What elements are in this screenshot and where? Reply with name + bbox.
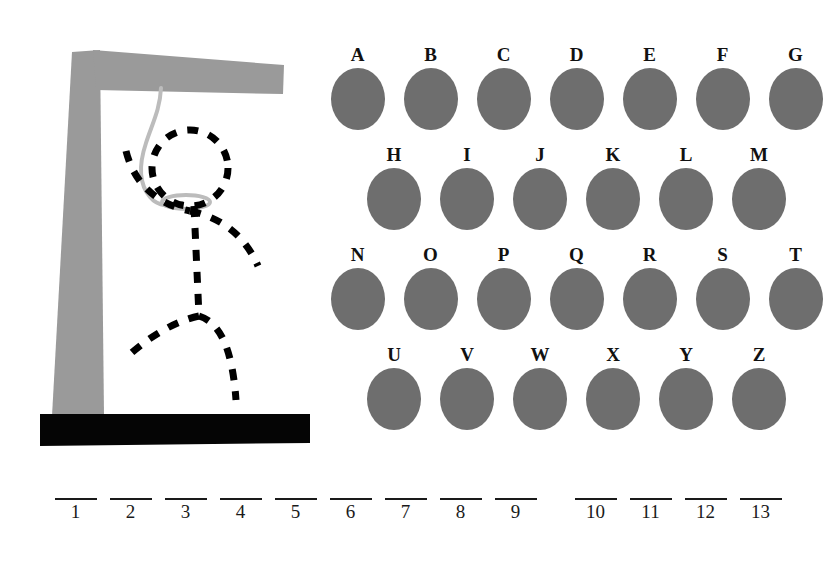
letter-key-p[interactable]: P <box>467 245 540 330</box>
blank-line <box>630 498 672 500</box>
blank-number: 7 <box>401 502 411 522</box>
letter-disc[interactable] <box>586 368 640 430</box>
blank-slot[interactable]: 1 <box>48 498 103 522</box>
blank-slot[interactable]: 11 <box>623 498 678 522</box>
blank-slot[interactable]: 13 <box>733 498 788 522</box>
letter-disc[interactable] <box>404 268 458 330</box>
letter-key-e[interactable]: E <box>613 45 686 130</box>
blank-line <box>110 498 152 500</box>
letter-key-d[interactable]: D <box>540 45 613 130</box>
gallows-base <box>40 414 310 446</box>
blank-number: 3 <box>181 502 191 522</box>
letter-disc[interactable] <box>331 268 385 330</box>
letter-disc[interactable] <box>367 368 421 430</box>
letter-disc[interactable] <box>659 368 713 430</box>
blank-line <box>330 498 372 500</box>
letter-key-f[interactable]: F <box>686 45 759 130</box>
blank-line <box>440 498 482 500</box>
blank-line <box>55 498 97 500</box>
letter-label: D <box>570 45 584 64</box>
letter-disc[interactable] <box>550 268 604 330</box>
letter-key-c[interactable]: C <box>467 45 540 130</box>
blank-line <box>165 498 207 500</box>
letter-key-s[interactable]: S <box>686 245 759 330</box>
letter-disc[interactable] <box>404 68 458 130</box>
blank-slot[interactable]: 10 <box>568 498 623 522</box>
letter-disc[interactable] <box>586 168 640 230</box>
letter-disc[interactable] <box>659 168 713 230</box>
letter-disc[interactable] <box>769 68 823 130</box>
letter-key-l[interactable]: L <box>650 145 723 230</box>
letter-disc[interactable] <box>440 368 494 430</box>
letter-disc[interactable] <box>477 268 531 330</box>
letter-key-a[interactable]: A <box>321 45 394 130</box>
letter-disc[interactable] <box>550 68 604 130</box>
letter-label: J <box>535 145 545 164</box>
letter-disc[interactable] <box>769 268 823 330</box>
letter-key-r[interactable]: R <box>613 245 686 330</box>
letter-label: L <box>680 145 693 164</box>
letter-key-q[interactable]: Q <box>540 245 613 330</box>
letter-label: Y <box>679 345 693 364</box>
letter-key-n[interactable]: N <box>321 245 394 330</box>
letter-label: Q <box>569 245 584 264</box>
letter-label: G <box>788 45 803 64</box>
letter-disc[interactable] <box>477 68 531 130</box>
blank-slot[interactable]: 6 <box>323 498 378 522</box>
letter-disc[interactable] <box>440 168 494 230</box>
letter-label: O <box>423 245 438 264</box>
blank-line <box>275 498 317 500</box>
letter-key-x[interactable]: X <box>577 345 650 430</box>
figure-right-arm <box>190 211 258 266</box>
blank-number: 8 <box>456 502 466 522</box>
letter-key-g[interactable]: G <box>759 45 832 130</box>
letter-key-b[interactable]: B <box>394 45 467 130</box>
letter-key-i[interactable]: I <box>431 145 504 230</box>
letter-key-o[interactable]: O <box>394 245 467 330</box>
letter-key-h[interactable]: H <box>358 145 431 230</box>
blank-number: 13 <box>751 502 770 522</box>
blank-slot[interactable]: 12 <box>678 498 733 522</box>
letter-disc[interactable] <box>732 168 786 230</box>
answer-blanks: 1 2 3 4 5 6 7 <box>48 498 788 558</box>
letter-key-u[interactable]: U <box>358 345 431 430</box>
letter-disc[interactable] <box>331 68 385 130</box>
blank-slot[interactable]: 9 <box>488 498 543 522</box>
letter-key-y[interactable]: Y <box>650 345 723 430</box>
blank-line <box>575 498 617 500</box>
letter-disc[interactable] <box>513 368 567 430</box>
letter-key-w[interactable]: W <box>504 345 577 430</box>
keyboard-row-3: N O P Q R S T <box>320 230 833 330</box>
letter-key-v[interactable]: V <box>431 345 504 430</box>
blank-number: 6 <box>346 502 356 522</box>
letter-disc[interactable] <box>696 68 750 130</box>
answer-word-1: 1 2 3 4 5 6 7 <box>48 498 543 522</box>
blank-slot[interactable]: 2 <box>103 498 158 522</box>
gallows-drawing <box>0 0 320 470</box>
letter-disc[interactable] <box>367 168 421 230</box>
letter-label: Z <box>753 345 766 364</box>
blank-number: 4 <box>236 502 246 522</box>
blank-number: 2 <box>126 502 136 522</box>
letter-key-j[interactable]: J <box>504 145 577 230</box>
blank-number: 12 <box>696 502 715 522</box>
blank-slot[interactable]: 8 <box>433 498 488 522</box>
letter-key-m[interactable]: M <box>723 145 796 230</box>
letter-key-k[interactable]: K <box>577 145 650 230</box>
letter-disc[interactable] <box>732 368 786 430</box>
blank-slot[interactable]: 4 <box>213 498 268 522</box>
letter-label: X <box>606 345 620 364</box>
letter-disc[interactable] <box>513 168 567 230</box>
letter-disc[interactable] <box>623 68 677 130</box>
letter-label: U <box>387 345 401 364</box>
letter-disc[interactable] <box>696 268 750 330</box>
blank-slot[interactable]: 5 <box>268 498 323 522</box>
figure-left-leg <box>128 316 199 356</box>
letter-disc[interactable] <box>623 268 677 330</box>
letter-label: I <box>463 145 470 164</box>
letter-key-z[interactable]: Z <box>723 345 796 430</box>
letter-key-t[interactable]: T <box>759 245 832 330</box>
blank-slot[interactable]: 7 <box>378 498 433 522</box>
blank-slot[interactable]: 3 <box>158 498 213 522</box>
hangman-game-page: A B C D E F G <box>0 0 833 577</box>
